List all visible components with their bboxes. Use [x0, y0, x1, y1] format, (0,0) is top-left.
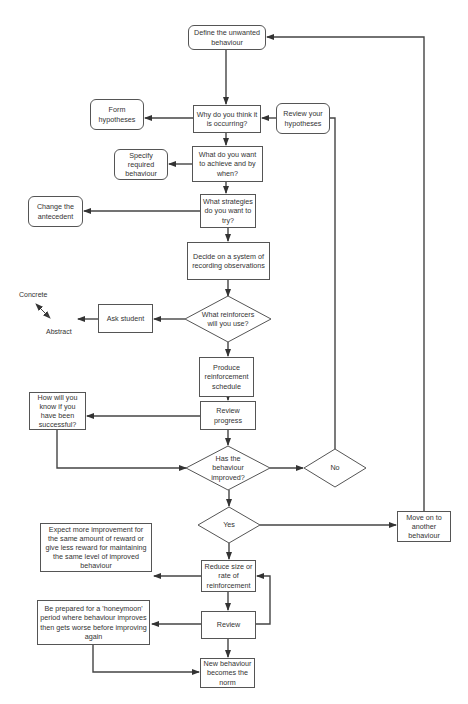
node-produce-schedule: Produce reinforcement schedule	[199, 357, 254, 397]
node-decide-recording: Decide on a system of recording observat…	[187, 242, 270, 280]
node-specify-behaviour: Specify required behaviour	[114, 149, 168, 180]
node-form-hypotheses: Form hypotheses	[90, 99, 144, 130]
node-review-hypotheses: Review your hypotheses	[276, 103, 330, 134]
node-define-behaviour: Define the unwanted behaviour	[188, 25, 266, 50]
node-ask-student: Ask student	[98, 304, 153, 333]
node-what-achieve: What do you want to achieve and by when?	[192, 146, 263, 182]
flowchart: Define the unwanted behaviour Why do you…	[0, 0, 468, 704]
decision-label-no: No	[315, 462, 355, 474]
scale-label-abstract: Abstract	[46, 328, 72, 335]
node-strategies: What strategies do you want to try?	[200, 194, 256, 228]
scale-label-concrete: Concrete	[19, 291, 47, 298]
node-why-occurring: Why do you think it is occurring?	[193, 105, 261, 133]
node-new-norm: New behaviour becomes the norm	[200, 658, 255, 688]
node-review-progress: Review progress	[200, 401, 256, 430]
node-how-know: How will you know if you have been succe…	[29, 392, 86, 430]
node-change-antecedent: Change the antecedent	[28, 196, 83, 227]
decision-label-reinforcers: What reinforcers will you use?	[200, 302, 256, 336]
node-expect-more: Expect more improvement for the same amo…	[40, 523, 152, 572]
decision-label-has-improved: Has the behaviour improved?	[202, 452, 254, 484]
node-reduce-reinforcement: Reduce size or rate of reinforcement	[201, 560, 256, 592]
decision-label-yes: Yes	[209, 519, 249, 531]
node-honeymoon: Be prepared for a 'honeymoon' period whe…	[37, 600, 150, 645]
node-move-on: Move on to another behaviour	[397, 511, 451, 542]
node-review: Review	[201, 611, 256, 639]
